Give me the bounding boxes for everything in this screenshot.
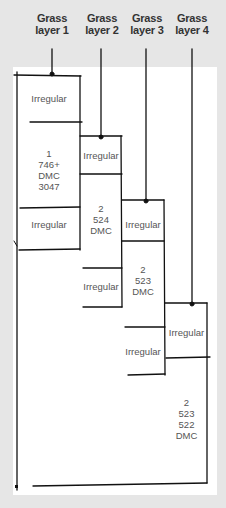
label-l4-irregular-top: Irregular <box>166 327 207 338</box>
label-l4-main: 2 523 522 DMC <box>166 397 207 441</box>
label-l2-main: 2 524 DMC <box>80 203 122 236</box>
label-l1-irregular-top: Irregular <box>19 93 79 104</box>
label-l1-irregular-bottom: Irregular <box>19 219 79 230</box>
label-l2-irregular-bottom: Irregular <box>80 281 122 292</box>
label-l3-main: 2 523 DMC <box>122 264 164 297</box>
label-line: 523 <box>166 408 207 419</box>
label-line: DMC <box>80 225 122 236</box>
label-l3-irregular-bottom: Irregular <box>122 346 164 357</box>
label-line: 522 <box>166 419 207 430</box>
label-line: 524 <box>80 214 122 225</box>
label-line: DMC <box>122 286 164 297</box>
label-line: 523 <box>122 275 164 286</box>
label-line: DMC <box>19 170 79 181</box>
label-line: DMC <box>166 430 207 441</box>
label-l2-irregular-top: Irregular <box>80 150 122 161</box>
label-line: 2 <box>166 397 207 408</box>
label-line: 2 <box>122 264 164 275</box>
label-l1-main: 1 746+ DMC 3047 <box>19 148 79 192</box>
label-l3-irregular-top: Irregular <box>122 219 164 230</box>
label-line: 3047 <box>19 181 79 192</box>
label-line: 2 <box>80 203 122 214</box>
label-line: 1 <box>19 148 79 159</box>
label-line: 746+ <box>19 159 79 170</box>
